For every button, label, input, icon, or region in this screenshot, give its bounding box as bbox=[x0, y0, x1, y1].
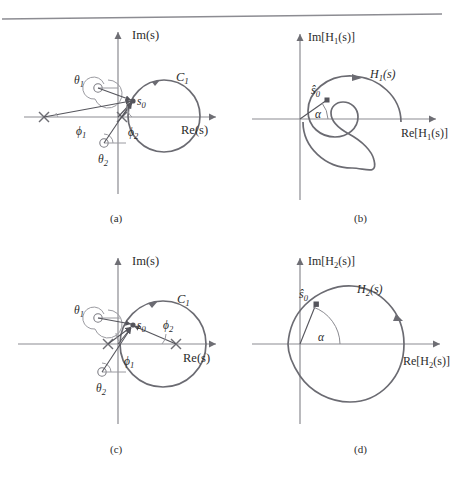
panel-d bbox=[252, 258, 440, 424]
panel-a-point-s0-label: s0 bbox=[137, 95, 146, 110]
panel-b-alpha-label: α bbox=[315, 108, 322, 120]
panel-b-real-axis-label: Re[H1(s)] bbox=[401, 126, 448, 142]
panel-d-point-s0hat-marker bbox=[314, 302, 319, 307]
panel-a-theta-1-label: θ1 bbox=[74, 74, 84, 89]
caption-a: (a) bbox=[110, 212, 123, 225]
panel-a-contour-c1 bbox=[128, 80, 200, 152]
panel-c-contour-label: C1 bbox=[177, 292, 190, 308]
panel-b-alpha-arc bbox=[322, 103, 328, 119]
panel-c-real-axis-label: Re(s) bbox=[183, 351, 210, 365]
panel-a-point-s0-marker bbox=[130, 98, 135, 103]
panel-c-point-s0-label: s0 bbox=[137, 319, 146, 334]
panel-c-phi-1-label: ϕ1 bbox=[124, 355, 134, 370]
panel-a-imag-axis-label: Im(s) bbox=[132, 28, 159, 42]
panel-b-vector-s0hat bbox=[300, 100, 327, 119]
panel-c-theta-1-label: θ1 bbox=[74, 304, 84, 319]
panel-c-theta-2-label: θ2 bbox=[96, 382, 107, 397]
panel-a-real-axis-label: Re(s) bbox=[181, 123, 208, 137]
figure-svg: Im(s) Re(s) C1 s0 θ1 θ2 ϕ1 ϕ2 Im[H1(s)] … bbox=[0, 0, 476, 479]
panel-a-phi-2-label: ϕ2 bbox=[128, 126, 139, 141]
top-rule bbox=[2, 14, 442, 19]
figure-root: Im(s) Re(s) C1 s0 θ1 θ2 ϕ1 ϕ2 Im[H1(s)] … bbox=[0, 0, 476, 479]
panel-d-vector-s0hat bbox=[300, 304, 316, 344]
panel-d-real-axis-label: Re[H2(s)] bbox=[403, 354, 450, 370]
panel-c-imag-axis-label: Im(s) bbox=[132, 254, 159, 268]
panel-a-vector-pole1-to-s0 bbox=[98, 88, 131, 100]
panel-a bbox=[24, 32, 216, 194]
panel-c-phi-2-label: ϕ2 bbox=[163, 319, 174, 334]
panel-a-phi-1-label: ϕ1 bbox=[76, 125, 86, 140]
panel-d-imag-axis-label: Im[H2(s)] bbox=[308, 254, 355, 270]
panel-d-point-s0hat-label: ŝ0 bbox=[299, 287, 309, 303]
panel-c-point-s0-marker bbox=[130, 322, 135, 327]
panel-c-contour-direction-arrow bbox=[148, 301, 158, 308]
caption-b: (b) bbox=[354, 212, 367, 225]
panel-d-alpha-label: α bbox=[318, 331, 325, 343]
panel-d-curve-label: H2(s) bbox=[356, 282, 383, 298]
panel-b-curve-label: H1(s) bbox=[369, 67, 396, 83]
panel-b-point-s0hat-marker bbox=[325, 98, 330, 103]
panel-a-theta-2-label: θ2 bbox=[98, 153, 109, 168]
panel-b-point-s0hat-label: ŝ0 bbox=[311, 83, 321, 99]
caption-d: (d) bbox=[354, 443, 367, 456]
panel-d-direction-arrow bbox=[393, 314, 403, 321]
caption-c: (c) bbox=[110, 443, 123, 456]
panel-a-contour-label: C1 bbox=[176, 70, 189, 86]
panel-c bbox=[18, 258, 216, 424]
panel-b-imag-axis-label: Im[H1(s)] bbox=[308, 30, 355, 46]
panel-b bbox=[252, 34, 436, 200]
panel-b-direction-arrow bbox=[352, 74, 362, 81]
